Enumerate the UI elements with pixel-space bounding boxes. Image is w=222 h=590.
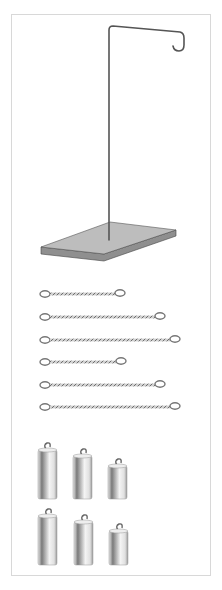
apparatus-figure [0,0,222,590]
spring-5 [40,381,165,388]
spring-2 [40,313,165,320]
weight-4 [38,509,57,565]
weight-3 [108,459,127,499]
weight-5 [74,515,93,565]
spring-3 [40,336,180,343]
weight-6 [109,524,128,565]
stand-rod [109,26,184,240]
spring-6 [40,403,180,410]
spring-1 [40,290,125,297]
spring-4 [40,358,126,365]
weight-1 [38,443,57,499]
weight-2 [73,449,92,499]
springs-group [40,290,180,410]
stand-with-hook [41,26,184,261]
weights-group [38,443,128,565]
